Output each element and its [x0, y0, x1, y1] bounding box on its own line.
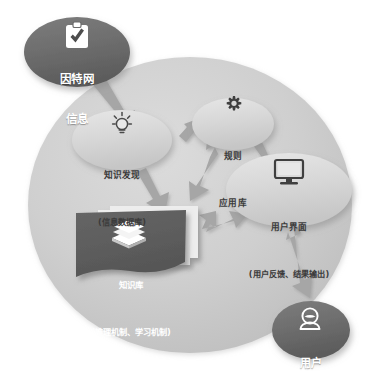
- end-user-node: [272, 301, 350, 359]
- diagram-shapes-layer: [0, 0, 368, 377]
- diagram-canvas: 因特网 信息 知识发现 (信息数据库) 规则 应用库 用户界面 (用户反馈、结果…: [0, 0, 368, 377]
- clipboard-check-icon: [66, 22, 88, 48]
